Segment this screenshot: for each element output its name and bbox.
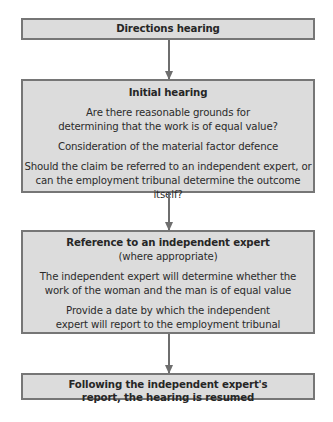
node-title: Following the independent expert's — [23, 378, 313, 391]
arrow-down-icon — [168, 334, 170, 373]
arrow-down-icon — [168, 193, 170, 230]
node-title: Initial hearing — [23, 86, 313, 100]
node-text-line: Are there reasonable grounds for — [23, 106, 313, 120]
node-title: Reference to an independent expert — [23, 236, 313, 250]
node-text-line: The independent expert will determine wh… — [23, 270, 313, 284]
node-text-line: determining that the work is of equal va… — [23, 120, 313, 134]
arrow-down-icon — [168, 40, 170, 79]
node-title: Directions hearing — [23, 22, 313, 36]
node-directions-hearing: Directions hearing — [21, 18, 315, 40]
node-text-line: expert will report to the employment tri… — [23, 318, 313, 332]
node-text-line: Provide a date by which the independent — [23, 304, 313, 318]
node-hearing-resumed: Following the independent expert's repor… — [21, 373, 315, 400]
node-title: report, the hearing is resumed — [23, 391, 313, 404]
node-subtitle: (where appropriate) — [23, 250, 313, 264]
node-text-line: Consideration of the material factor def… — [23, 140, 313, 154]
node-reference-to-expert: Reference to an independent expert (wher… — [21, 230, 315, 334]
node-text-line: Should the claim be referred to an indep… — [23, 160, 313, 174]
node-initial-hearing: Initial hearing Are there reasonable gro… — [21, 79, 315, 193]
node-text-line: work of the woman and the man is of equa… — [23, 284, 313, 298]
